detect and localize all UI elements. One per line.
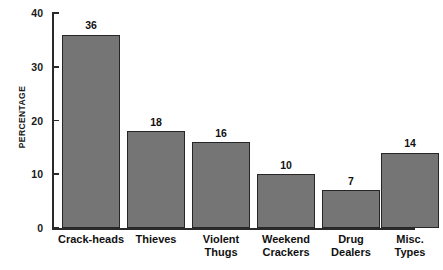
bar-group: 14 xyxy=(381,13,439,228)
bar-value-label: 7 xyxy=(322,176,380,187)
plot-area: 36181610714 xyxy=(53,13,415,228)
bar-value-label: 10 xyxy=(257,160,315,171)
x-axis-tick-label: Misc.Types xyxy=(365,233,443,259)
x-axis-label-line: Types xyxy=(365,246,443,259)
y-axis-tick-label: 0 xyxy=(0,222,43,234)
bar-group: 10 xyxy=(257,13,315,228)
bar-group: 36 xyxy=(62,13,120,228)
x-axis-line xyxy=(52,228,415,230)
bar[interactable] xyxy=(322,190,380,228)
bar[interactable] xyxy=(127,131,185,228)
bar-group: 7 xyxy=(322,13,380,228)
bar-group: 16 xyxy=(192,13,250,228)
bar-value-label: 36 xyxy=(62,20,120,31)
y-axis-tick-label: 30 xyxy=(0,61,43,73)
bar-value-label: 16 xyxy=(192,128,250,139)
bar-value-label: 18 xyxy=(127,117,185,128)
y-axis-tick-label: 10 xyxy=(0,168,43,180)
y-axis-tick-label: 40 xyxy=(0,7,43,19)
bar[interactable] xyxy=(257,174,315,228)
bar[interactable] xyxy=(381,153,439,228)
y-axis-tick-label: 20 xyxy=(0,115,43,127)
x-axis-label-line: Misc. xyxy=(365,233,443,246)
bar[interactable] xyxy=(192,142,250,228)
bar-value-label: 14 xyxy=(381,138,439,149)
bar[interactable] xyxy=(62,35,120,229)
bar-group: 18 xyxy=(127,13,185,228)
